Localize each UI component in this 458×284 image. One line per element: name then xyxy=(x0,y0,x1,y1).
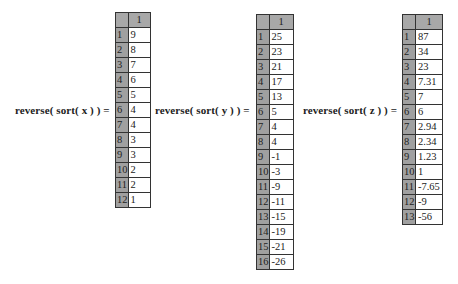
matrix-header-row: 1 xyxy=(116,13,151,28)
row-index: 9 xyxy=(403,150,416,165)
row-index: 14 xyxy=(257,225,270,240)
matrix-row: 37 xyxy=(116,58,151,73)
matrix-row: 91.23 xyxy=(403,150,443,165)
row-index: 12 xyxy=(257,195,270,210)
matrix-row: 417 xyxy=(257,75,294,90)
row-index: 2 xyxy=(403,45,416,60)
row-value: -3 xyxy=(269,165,293,180)
matrix-row: 12-11 xyxy=(257,195,294,210)
matrix-row: 10-3 xyxy=(257,165,294,180)
row-index: 11 xyxy=(403,180,416,195)
row-value: -56 xyxy=(416,210,443,225)
matrix-row: 66 xyxy=(403,105,443,120)
row-index: 16 xyxy=(257,255,270,270)
row-index: 7 xyxy=(403,120,416,135)
row-value: 34 xyxy=(416,45,443,60)
expression-label-y: reverse( sort( y ) ) = xyxy=(155,104,250,116)
row-index: 10 xyxy=(403,165,416,180)
matrix-row: 72.94 xyxy=(403,120,443,135)
row-index: 11 xyxy=(257,180,270,195)
row-value: -9 xyxy=(269,180,293,195)
row-value: 25 xyxy=(269,30,293,45)
row-value: 7 xyxy=(128,58,150,73)
row-value: 4 xyxy=(128,103,150,118)
closing-text: ) ) = xyxy=(227,104,249,116)
row-index: 15 xyxy=(257,240,270,255)
matrix-row: 321 xyxy=(257,60,294,75)
row-value: -26 xyxy=(269,255,293,270)
expression-label-z: reverse( sort( z ) ) = xyxy=(303,104,397,116)
matrix-row: 55 xyxy=(116,88,151,103)
matrix-row: 28 xyxy=(116,43,151,58)
matrix-row: 11-7.65 xyxy=(403,180,443,195)
function-text: reverse( sort( xyxy=(303,104,370,116)
matrix-row: 46 xyxy=(116,73,151,88)
row-index: 1 xyxy=(257,30,270,45)
row-index: 6 xyxy=(116,103,129,118)
row-value: 1.23 xyxy=(416,150,443,165)
matrix-row: 47.31 xyxy=(403,75,443,90)
row-index: 5 xyxy=(257,90,270,105)
row-index: 7 xyxy=(257,120,270,135)
row-value: -21 xyxy=(269,240,293,255)
matrix-row: 112 xyxy=(116,178,151,193)
row-index: 12 xyxy=(403,195,416,210)
matrix-corner-cell xyxy=(403,15,416,30)
row-value: 23 xyxy=(269,45,293,60)
matrix-corner-cell xyxy=(257,15,270,30)
matrix-row: 13-56 xyxy=(403,210,443,225)
row-value: 87 xyxy=(416,30,443,45)
matrix-header-row: 1 xyxy=(257,15,294,30)
row-index: 7 xyxy=(116,118,129,133)
row-index: 3 xyxy=(257,60,270,75)
row-index: 10 xyxy=(257,165,270,180)
row-value: 3 xyxy=(128,133,150,148)
matrix-row: 223 xyxy=(257,45,294,60)
matrix-row: 9-1 xyxy=(257,150,294,165)
row-value: 13 xyxy=(269,90,293,105)
row-value: -11 xyxy=(269,195,293,210)
matrix-row: 102 xyxy=(116,163,151,178)
row-value: -7.65 xyxy=(416,180,443,195)
row-value: 5 xyxy=(128,88,150,103)
row-value: 4 xyxy=(269,135,293,150)
matrix-row: 84 xyxy=(257,135,294,150)
row-index: 10 xyxy=(116,163,129,178)
row-index: 8 xyxy=(403,135,416,150)
row-value: 7.31 xyxy=(416,75,443,90)
matrix-row: 13-15 xyxy=(257,210,294,225)
matrix-row: 74 xyxy=(116,118,151,133)
function-text: reverse( sort( xyxy=(155,104,222,116)
row-value: 4 xyxy=(269,120,293,135)
column-header: 1 xyxy=(416,15,443,30)
row-index: 13 xyxy=(257,210,270,225)
function-text: reverse( sort( xyxy=(15,104,82,116)
row-value: -9 xyxy=(416,195,443,210)
row-value: 2 xyxy=(128,178,150,193)
row-index: 6 xyxy=(403,105,416,120)
row-value: 9 xyxy=(128,28,150,43)
row-value: 2.34 xyxy=(416,135,443,150)
matrix-row: 323 xyxy=(403,60,443,75)
matrix-row: 125 xyxy=(257,30,294,45)
row-index: 3 xyxy=(116,58,129,73)
matrix-row: 121 xyxy=(116,193,151,208)
row-index: 2 xyxy=(116,43,129,58)
matrix-row: 83 xyxy=(116,133,151,148)
result-matrix-x: 1192837465564748393102112121 xyxy=(115,12,151,208)
row-value: -15 xyxy=(269,210,293,225)
row-index: 3 xyxy=(403,60,416,75)
row-value: 4 xyxy=(128,118,150,133)
row-index: 12 xyxy=(116,193,129,208)
row-value: 23 xyxy=(416,60,443,75)
matrix-row: 187 xyxy=(403,30,443,45)
column-header: 1 xyxy=(269,15,293,30)
row-index: 8 xyxy=(116,133,129,148)
row-index: 9 xyxy=(116,148,129,163)
matrix-row: 11-9 xyxy=(257,180,294,195)
row-value: 1 xyxy=(128,193,150,208)
column-header: 1 xyxy=(128,13,150,28)
matrix-row: 101 xyxy=(403,165,443,180)
matrix-row: 93 xyxy=(116,148,151,163)
matrix-row: 234 xyxy=(403,45,443,60)
